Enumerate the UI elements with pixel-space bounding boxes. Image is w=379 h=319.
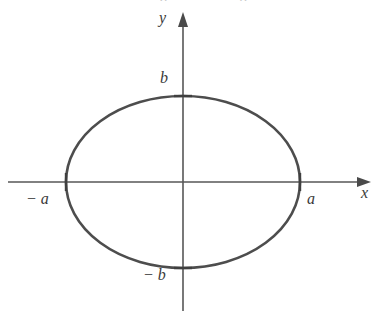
ellipse-figure: a b y x b − b a − a bbox=[0, 0, 379, 319]
label-neg-a: − a bbox=[26, 191, 49, 207]
x-axis-label: x bbox=[361, 185, 368, 201]
y-axis-arrowhead-icon bbox=[178, 12, 188, 27]
ellipse-diagram-canvas bbox=[0, 0, 379, 319]
label-a: a bbox=[307, 191, 315, 207]
label-b: b bbox=[160, 70, 168, 86]
label-neg-b: − b bbox=[143, 267, 166, 283]
y-axis-label: y bbox=[159, 10, 166, 26]
